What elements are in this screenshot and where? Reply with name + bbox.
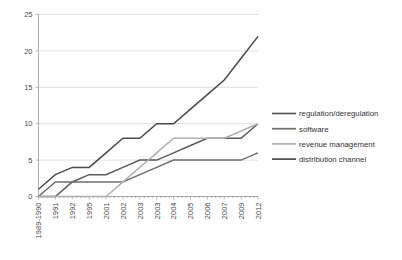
y-tick-label: 5 — [28, 156, 32, 165]
y-tick-label: 25 — [24, 10, 32, 19]
y-tick-label: 20 — [24, 47, 32, 56]
line-chart: 05101520251989-1990199119921995200120022… — [0, 0, 402, 260]
x-tick-label: 2004 — [169, 203, 178, 220]
x-tick-label: 2001 — [102, 203, 111, 220]
y-tick-label: 10 — [24, 119, 32, 128]
chart-legend: regulation/deregulationsoftwarerevenue m… — [272, 109, 378, 164]
y-tick-label: 0 — [28, 192, 32, 201]
legend-label-1: software — [299, 125, 328, 134]
x-tick-label: 1995 — [85, 203, 94, 220]
x-tick-label: 2005 — [186, 203, 195, 220]
x-tick-label: 2012 — [254, 203, 263, 220]
legend-label-3: distribution channel — [299, 155, 366, 164]
x-tick-label: 1989-1990 — [34, 203, 43, 239]
x-tick-label: 1991 — [51, 203, 60, 220]
x-tick-label: 2002 — [119, 203, 128, 220]
x-axis-labels: 1989-19901991199219952001200220032003200… — [34, 203, 262, 239]
y-tick-label: 15 — [24, 83, 32, 92]
chart-container: 05101520251989-1990199119921995200120022… — [0, 0, 402, 260]
x-tick-label: 2003 — [136, 203, 145, 220]
x-tick-label: 2003 — [152, 203, 161, 220]
grid-lines — [39, 15, 259, 197]
x-tick-label: 2007 — [220, 203, 229, 220]
series-group — [39, 36, 259, 196]
x-tick-label: 1992 — [68, 203, 77, 220]
x-tick-label: 2006 — [203, 203, 212, 220]
legend-label-0: regulation/deregulation — [299, 109, 378, 118]
legend-label-2: revenue management — [299, 140, 376, 149]
y-axis-ticks: 0510152025 — [24, 10, 38, 201]
series-line-distribution-channel — [39, 36, 259, 189]
x-tick-label: 2009 — [237, 203, 246, 220]
